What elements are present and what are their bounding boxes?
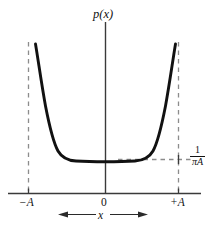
y-axis-label: p(x) <box>93 8 113 21</box>
x-tick-label-zero: 0 <box>101 197 107 209</box>
x-extent-arrow-label: x <box>98 210 103 222</box>
plot-canvas <box>0 0 212 226</box>
peak-value-numerator: 1 <box>190 145 205 157</box>
x-tick-label-minus-a: −A <box>19 197 34 209</box>
x-tick-label-plus-a: +A <box>170 197 185 209</box>
peak-value-callout: 1 πA <box>190 145 205 167</box>
figure-container: p(x) −A 0 +A x 1 πA <box>0 0 212 226</box>
peak-value-denominator: πA <box>190 157 205 168</box>
x-extent-arrowhead-right <box>138 211 148 217</box>
x-extent-arrowhead-left <box>58 211 68 217</box>
